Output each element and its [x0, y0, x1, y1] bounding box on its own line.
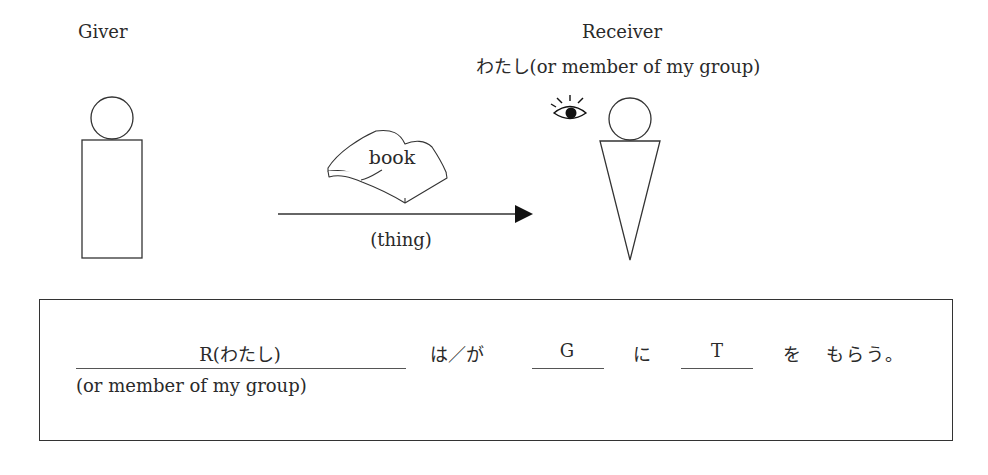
transfer-arrow — [278, 205, 533, 223]
book-label: book — [369, 146, 416, 168]
giver-slot-underline — [532, 368, 604, 369]
receiver-note: (or member of my group) — [76, 375, 307, 396]
thing-slot: T — [711, 340, 723, 361]
receiver-slot-underline — [76, 368, 406, 369]
thing-label: (thing) — [370, 229, 432, 250]
giver-slot: G — [560, 340, 574, 361]
particle-ni: に — [633, 340, 651, 366]
verb-morau: もらう。 — [826, 340, 905, 366]
thing-slot-underline — [681, 368, 753, 369]
receiver-figure — [600, 98, 660, 260]
giving-diagram: book (thing) — [0, 0, 988, 300]
receiver-slot: R(わたし) — [199, 340, 281, 366]
particle-topic: は／が — [430, 340, 484, 366]
sentence-pattern-box — [39, 299, 953, 441]
eye-icon — [551, 95, 586, 119]
particle-wo: を — [783, 340, 801, 366]
giver-figure — [82, 97, 142, 258]
